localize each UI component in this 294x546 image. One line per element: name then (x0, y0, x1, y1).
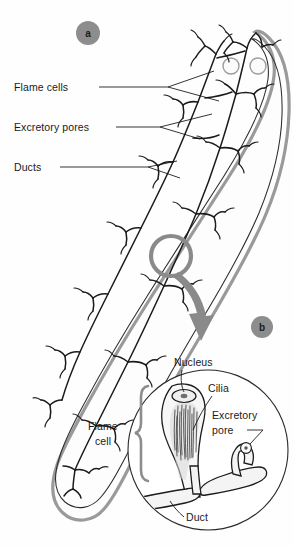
label-flame-cells: Flame cells (14, 81, 68, 93)
label-flame-cells-group: Flame cells (14, 71, 219, 101)
eyespot-left (223, 58, 239, 74)
label-nucleus: Nucleus (174, 356, 213, 368)
duct-lumen-opening (134, 498, 145, 511)
diagram-canvas: a Flame cells Excretory pores Ducts (0, 0, 294, 546)
excretory-pore-dot (244, 446, 247, 449)
leader-excretory-pores-branch-1 (160, 114, 212, 127)
label-duct: Duct (186, 511, 208, 523)
leader-excretory-pores-branch-2 (160, 127, 200, 139)
leader-ducts-branch-2 (148, 167, 180, 178)
label-excretory-pore-line2: pore (212, 424, 233, 436)
label-flame-cell-line2: cell (95, 435, 111, 447)
label-excretory-pores: Excretory pores (14, 121, 89, 133)
panel-marker-b: b (251, 316, 273, 338)
label-excretory-pore-line1: Excretory (212, 409, 258, 421)
panel-a-letter: a (85, 28, 91, 39)
figure-root: a Flame cells Excretory pores Ducts (0, 0, 294, 546)
nucleus-dot (181, 394, 188, 398)
label-ducts: Ducts (14, 161, 41, 173)
eyespot-right (250, 58, 266, 74)
duct-lumen-inner (136, 501, 141, 508)
panel-marker-a: a (76, 21, 100, 45)
label-flame-cell-line1: Flame (88, 420, 118, 432)
label-cilia: Cilia (208, 382, 229, 394)
panel-b-letter: b (259, 322, 265, 333)
inset-boundary-circle (128, 370, 288, 530)
